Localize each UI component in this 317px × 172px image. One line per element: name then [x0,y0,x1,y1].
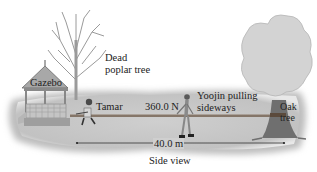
gazebo-label: Gazebo [30,77,62,88]
oak-label-line2: tree [280,112,295,123]
tamar-label: Tamar [96,101,123,112]
force-label: 360.0 N [145,101,179,112]
dead-tree-label-line1: Dead [105,52,127,63]
yoojin-label-line1: Yoojin pulling [197,90,258,101]
distance-label: 40.0 m [153,138,184,149]
yoojin-label-line2: sideways [197,102,236,113]
figure-caption: Side view [149,155,191,166]
physics-diagram: Gazebo Dead poplar tree Tamar 360.0 N Yo… [0,0,317,172]
oak-label-line1: Oak [280,101,297,112]
dead-tree-label-line2: poplar tree [105,64,150,75]
